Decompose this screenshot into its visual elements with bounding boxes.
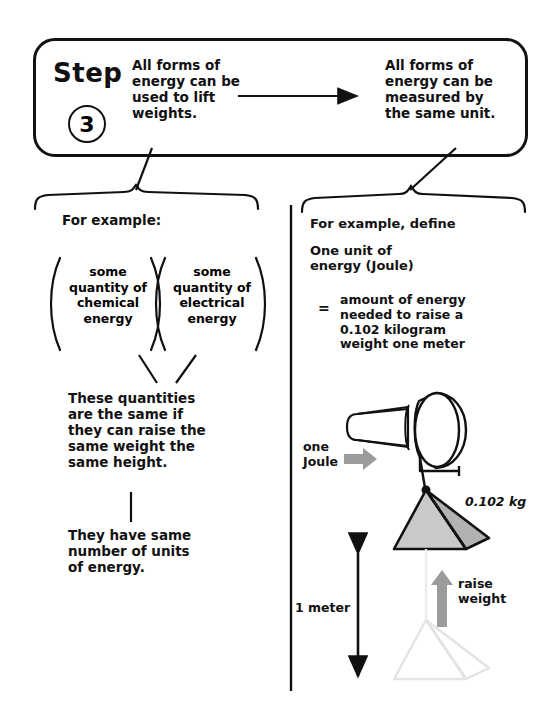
height-label: 1 meter — [295, 601, 350, 616]
left-for-example-label: For example: — [62, 213, 161, 229]
right-arrow-gray-icon — [344, 448, 377, 470]
one-joule-label: one Joule — [303, 440, 338, 470]
joule-term-label: One unit of energy (Joule) — [310, 243, 414, 274]
step-statement-right: All forms of energy can be measured by t… — [385, 58, 495, 122]
connector-chem-down — [139, 355, 157, 383]
right-brace — [302, 186, 525, 212]
pyramid-outline-faint — [394, 549, 489, 679]
raise-weight-label: raise weight — [458, 577, 506, 607]
joule-definition-text: amount of energy needed to raise a 0.102… — [340, 293, 466, 352]
group-electrical-energy: some quantity of electrical energy — [166, 264, 258, 327]
winch-assembly — [347, 393, 466, 495]
left-brace — [35, 185, 258, 209]
diagram-canvas: Step 3 All forms of energy can be used t… — [0, 0, 559, 715]
step-statement-left: All forms of energy can be used to lift … — [132, 58, 240, 122]
right-for-example-label: For example, define — [310, 216, 456, 231]
step-number-label: 3 — [79, 112, 94, 137]
left-conclusion-one: These quantities are the same if they ca… — [68, 391, 206, 471]
step-number-badge: 3 — [68, 105, 106, 143]
group-chemical-energy: some quantity of chemical energy — [62, 264, 154, 327]
step-word-label: Step — [53, 58, 122, 89]
equals-sign: = — [318, 300, 330, 317]
connector-elec-down — [176, 355, 196, 383]
up-arrow-gray-icon — [431, 570, 453, 627]
left-conclusion-two: They have same number of units of energy… — [68, 528, 191, 576]
weight-mass-label: 0.102 kg — [465, 495, 526, 510]
